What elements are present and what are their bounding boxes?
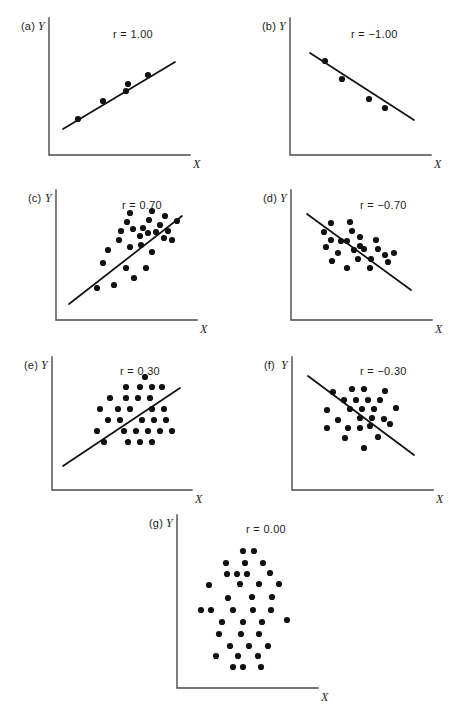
- data-point: [223, 560, 229, 566]
- data-point: [230, 607, 236, 613]
- data-point: [260, 560, 266, 566]
- data-point: [242, 560, 248, 566]
- data-point: [240, 548, 246, 554]
- data-point: [246, 643, 252, 649]
- data-point: [208, 607, 214, 613]
- data-point: [237, 581, 243, 587]
- data-point: [249, 594, 255, 600]
- data-point: [269, 594, 275, 600]
- data-point: [276, 581, 282, 587]
- data-point: [244, 571, 250, 577]
- data-point: [238, 631, 244, 637]
- data-point: [240, 619, 246, 625]
- data-point: [250, 607, 256, 613]
- data-point: [267, 570, 273, 576]
- data-point: [213, 653, 219, 659]
- data-point: [198, 607, 204, 613]
- data-point: [284, 617, 290, 623]
- data-point: [265, 643, 271, 649]
- axes-g: [177, 515, 318, 688]
- data-point: [251, 548, 257, 554]
- data-point: [227, 643, 233, 649]
- data-point: [224, 571, 230, 577]
- data-point: [259, 619, 265, 625]
- data-point: [240, 664, 246, 670]
- data-point: [256, 631, 262, 637]
- correlation-scatterplot-figure: (a)YXr = 1.00(b)YXr = −1.00(c)YXr = 0.70…: [0, 0, 449, 714]
- data-point: [216, 631, 222, 637]
- data-point: [225, 595, 231, 601]
- data-point: [206, 582, 212, 588]
- data-point: [219, 619, 225, 625]
- data-point: [256, 581, 262, 587]
- data-point: [230, 664, 236, 670]
- data-point: [268, 607, 274, 613]
- data-point: [234, 571, 240, 577]
- data-point: [235, 653, 241, 659]
- plot-area-g: [0, 0, 449, 714]
- data-point: [255, 653, 261, 659]
- data-point: [258, 664, 264, 670]
